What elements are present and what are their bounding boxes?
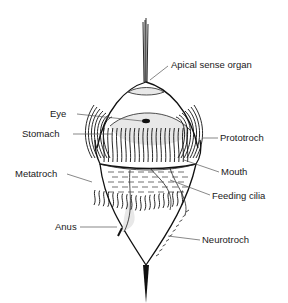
cilium xyxy=(140,196,141,211)
cilium xyxy=(181,191,182,206)
bristle xyxy=(173,230,176,232)
cilium xyxy=(177,191,178,206)
cilium xyxy=(117,193,118,208)
cilium xyxy=(122,194,123,209)
leader-apical xyxy=(150,66,168,80)
cilium xyxy=(149,195,150,210)
trochophore-diagram: Apical sense organ Eye Stomach Prototroc… xyxy=(0,0,288,303)
cilium xyxy=(158,194,159,209)
cilium xyxy=(168,192,169,207)
leader-neurotroch xyxy=(168,236,200,240)
label-eye: Eye xyxy=(50,108,66,119)
label-neurotroch: Neurotroch xyxy=(202,234,249,245)
bristle xyxy=(179,220,182,222)
cilium xyxy=(112,128,113,162)
bristle xyxy=(156,254,159,256)
label-mouth: Mouth xyxy=(221,166,247,177)
cilium xyxy=(108,192,109,207)
bristle xyxy=(186,210,189,212)
anus-mark xyxy=(118,228,122,236)
bristle xyxy=(159,249,162,251)
label-metatroch: Metatroch xyxy=(15,168,57,179)
cilium xyxy=(126,194,127,209)
label-prototroch: Prototroch xyxy=(220,132,264,143)
bristle xyxy=(166,239,169,241)
neurotroch-cilia xyxy=(156,210,189,256)
label-apical-sense-organ: Apical sense organ xyxy=(171,59,252,70)
bristle xyxy=(163,244,166,246)
hyposphere xyxy=(100,164,196,265)
leader-metatroch xyxy=(67,174,92,182)
cilium xyxy=(94,190,95,205)
label-feeding-cilia: Feeding cilia xyxy=(212,190,266,201)
posterior-tuft xyxy=(143,265,149,303)
apical-tuft xyxy=(143,18,148,82)
cilium xyxy=(112,192,113,207)
label-anus: Anus xyxy=(55,221,77,232)
cilium xyxy=(154,194,155,209)
eye-spot xyxy=(142,119,150,123)
label-stomach: Stomach xyxy=(22,128,60,139)
leader-feeding-cilia xyxy=(170,180,210,195)
cilium xyxy=(103,191,104,206)
cilium xyxy=(99,191,100,206)
cilium xyxy=(163,193,164,208)
bristle xyxy=(183,215,186,217)
cilium xyxy=(172,192,173,207)
cilium xyxy=(145,195,146,210)
cilium xyxy=(135,195,136,210)
cilium xyxy=(97,113,106,158)
bristle xyxy=(176,225,179,227)
cilium xyxy=(108,128,109,162)
